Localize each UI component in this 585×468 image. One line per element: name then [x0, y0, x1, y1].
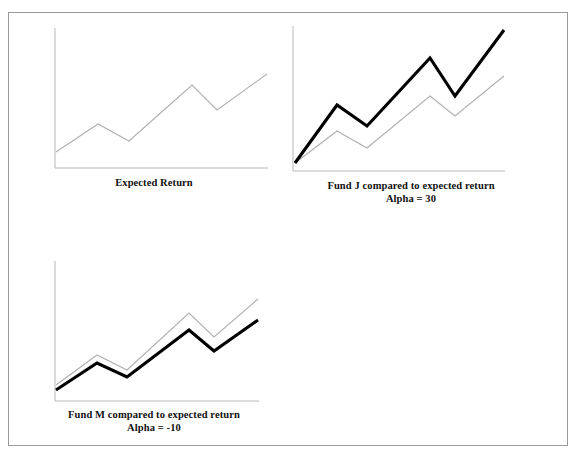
caption-line-1: Expected Return: [115, 177, 193, 188]
chart-expected-return: [29, 18, 279, 178]
caption-line-2: Alpha = -10: [29, 421, 279, 434]
figure-frame: Expected Return Fund J compared to expec…: [8, 12, 568, 446]
caption-line-1: Fund J compared to expected return: [327, 180, 494, 191]
caption-fund-m: Fund M compared to expected return Alpha…: [29, 408, 279, 434]
series-fund-m-line: [56, 320, 258, 390]
caption-expected-return: Expected Return: [29, 176, 279, 189]
series-fund-j-line: [295, 30, 504, 163]
series-expected-return-line: [56, 74, 267, 152]
panel-fund-m: Fund M compared to expected return Alpha…: [29, 253, 279, 448]
chart-fund-j: [267, 18, 527, 183]
caption-line-2: Alpha = 30: [267, 192, 555, 205]
chart-fund-m: [29, 253, 279, 413]
panel-fund-j: Fund J compared to expected return Alpha…: [267, 18, 555, 213]
caption-fund-j: Fund J compared to expected return Alpha…: [267, 179, 555, 205]
panel-expected-return: Expected Return: [29, 18, 279, 198]
caption-line-1: Fund M compared to expected return: [68, 409, 240, 420]
